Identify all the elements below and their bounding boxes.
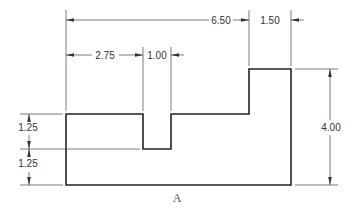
dimension-4-00: 4.00 — [321, 69, 341, 185]
dim-label-1-00: 1.00 — [147, 50, 167, 61]
dimension-1-25-upper: 1.25 — [18, 114, 38, 149]
dim-label-6-50: 6.50 — [211, 15, 231, 26]
dimension-1-50: 1.50 — [260, 15, 304, 26]
dim-label-4-00: 4.00 — [321, 122, 341, 133]
dimension-6-50: 6.50 — [66, 15, 249, 26]
dimension-2-75: 2.75 — [66, 50, 143, 61]
part-outline — [66, 69, 291, 185]
dimension-1-00: 1.00 — [147, 50, 184, 61]
dim-label-1-25-upper: 1.25 — [18, 122, 38, 133]
dimensioned-drawing: 6.50 1.50 2.75 1.00 4.00 1.25 1.25 A — [0, 0, 358, 210]
dim-label-1-25-lower: 1.25 — [18, 158, 38, 169]
dim-label-2-75: 2.75 — [95, 50, 115, 61]
view-label: A — [173, 191, 182, 205]
dim-label-1-50: 1.50 — [260, 15, 280, 26]
dimension-1-25-lower: 1.25 — [18, 149, 38, 185]
